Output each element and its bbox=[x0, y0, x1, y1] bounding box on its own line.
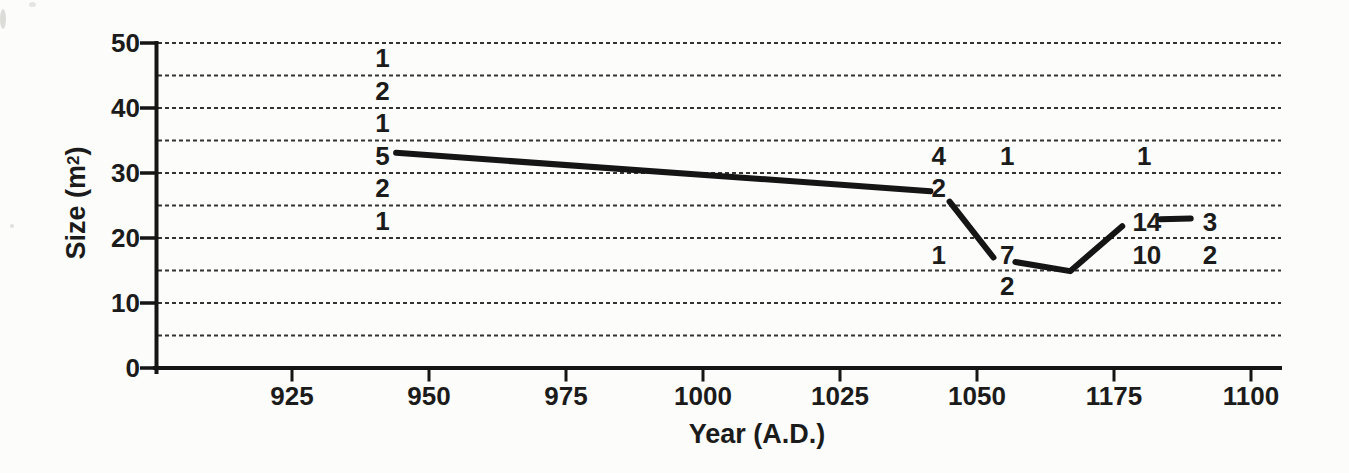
y-tick-label: 50 bbox=[111, 30, 140, 56]
x-axis-title: Year (A.D.) bbox=[689, 421, 826, 448]
x-tick-label: 1050 bbox=[948, 383, 1006, 409]
chart-figure: 0102030405092595097510001025105011751100… bbox=[0, 0, 1349, 473]
y-tick-label: 0 bbox=[126, 355, 140, 381]
count-annotation: 1 bbox=[375, 46, 389, 72]
x-tick-label: 1175 bbox=[1086, 383, 1142, 409]
y-axis-title-superscript: 2 bbox=[64, 156, 83, 165]
x-tick-label: 1000 bbox=[674, 383, 732, 409]
count-annotation: 10 bbox=[1132, 243, 1161, 269]
count-annotation: 2 bbox=[1000, 274, 1014, 300]
count-annotation: 2 bbox=[1203, 243, 1217, 269]
count-annotation: 14 bbox=[1132, 210, 1161, 236]
x-tick-label: 950 bbox=[407, 383, 450, 409]
count-annotation: 2 bbox=[375, 176, 389, 202]
count-annotation: 1 bbox=[1000, 143, 1014, 169]
x-tick-label: 1025 bbox=[811, 383, 869, 409]
count-annotation: 5 bbox=[375, 143, 389, 169]
data-line-segment bbox=[1015, 226, 1122, 271]
count-annotation: 1 bbox=[375, 208, 389, 234]
x-tick-label: 975 bbox=[544, 383, 587, 409]
count-annotation: 4 bbox=[931, 143, 945, 169]
x-tick-label: 1100 bbox=[1223, 383, 1279, 409]
count-annotation: 1 bbox=[1137, 143, 1151, 169]
data-line-segment bbox=[950, 202, 994, 258]
count-annotation: 3 bbox=[1203, 210, 1217, 236]
y-axis-title-text: Size (m bbox=[61, 165, 91, 260]
y-axis-title-close: ) bbox=[61, 147, 91, 156]
y-tick-label: 10 bbox=[111, 290, 140, 316]
count-annotation: 2 bbox=[375, 78, 389, 104]
count-annotation: 1 bbox=[931, 242, 945, 268]
y-tick-label: 30 bbox=[111, 160, 140, 186]
y-tick-label: 40 bbox=[111, 95, 140, 121]
data-line-segment bbox=[1161, 219, 1191, 220]
x-tick-label: 925 bbox=[270, 383, 313, 409]
y-tick-label: 20 bbox=[111, 225, 140, 251]
count-annotation: 7 bbox=[1000, 242, 1014, 268]
y-axis-title: Size (m2) bbox=[63, 147, 90, 260]
count-annotation: 1 bbox=[375, 111, 389, 137]
count-annotation: 2 bbox=[931, 176, 945, 202]
